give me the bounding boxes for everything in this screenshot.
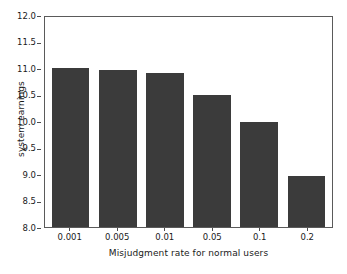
bar (288, 176, 326, 227)
bar-series (45, 17, 332, 227)
x-tick-slot: 0.001 (46, 228, 94, 244)
y-tick-mark (37, 122, 41, 123)
x-tick-label: 0.01 (141, 232, 189, 242)
y-tick-mark (37, 16, 41, 17)
x-tick-mark (69, 228, 70, 231)
x-tick-slot: 0.2 (284, 228, 332, 244)
bar (99, 70, 137, 227)
y-tick-mark (37, 228, 41, 229)
x-tick-label: 0.005 (94, 232, 142, 242)
bar (52, 68, 90, 227)
bar-slot (94, 17, 141, 227)
bar-chart-figure: system earnings 8.08.59.09.510.010.511.0… (0, 0, 347, 274)
x-tick-mark (259, 228, 260, 231)
x-tick-label: 0.1 (236, 232, 284, 242)
y-tick-label: 10.0 (0, 118, 36, 127)
y-tick-label: 8.5 (0, 197, 36, 206)
x-tick-mark (307, 228, 308, 231)
y-tick-mark (37, 43, 41, 44)
bar (146, 73, 184, 227)
bar (193, 95, 231, 227)
x-tick-label: 0.05 (189, 232, 237, 242)
y-tick-label: 9.0 (0, 171, 36, 180)
y-tick-label: 11.0 (0, 65, 36, 74)
bar-slot (47, 17, 94, 227)
x-tick-label: 0.001 (46, 232, 94, 242)
y-tick-mark (37, 96, 41, 97)
y-axis-tick-labels: 8.08.59.09.510.010.511.011.512.0 (0, 0, 44, 274)
x-tick-slot: 0.05 (189, 228, 237, 244)
y-tick-label: 12.0 (0, 12, 36, 21)
bar-slot (141, 17, 188, 227)
x-tick-mark (117, 228, 118, 231)
y-tick-mark (37, 149, 41, 150)
plot-area (44, 16, 333, 228)
bar (240, 122, 278, 227)
bar-slot (189, 17, 236, 227)
x-tick-slot: 0.01 (141, 228, 189, 244)
x-axis-tick-labels: 0.0010.0050.010.050.10.2 (44, 228, 333, 244)
y-tick-mark (37, 175, 41, 176)
y-tick-label: 10.5 (0, 91, 36, 100)
y-tick-label: 11.5 (0, 38, 36, 47)
x-tick-slot: 0.005 (94, 228, 142, 244)
bar-slot (236, 17, 283, 227)
x-tick-mark (164, 228, 165, 231)
x-tick-slot: 0.1 (236, 228, 284, 244)
y-tick-label: 9.5 (0, 144, 36, 153)
y-tick-mark (37, 202, 41, 203)
bar-slot (283, 17, 330, 227)
x-tick-mark (212, 228, 213, 231)
y-tick-label: 8.0 (0, 224, 36, 233)
x-tick-label: 0.2 (284, 232, 332, 242)
y-tick-mark (37, 69, 41, 70)
x-axis-label: Misjudgment rate for normal users (44, 248, 333, 259)
